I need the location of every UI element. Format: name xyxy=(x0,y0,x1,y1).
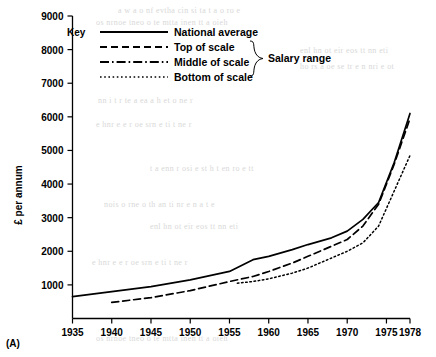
x-tick-label: 1935 xyxy=(61,327,84,338)
x-tick-label: 1970 xyxy=(336,327,359,338)
legend-label: National average xyxy=(174,26,258,38)
y-axis-title: £ per annum xyxy=(13,165,24,225)
legend-label: Bottom of scale xyxy=(174,71,253,83)
x-tick-label: 1960 xyxy=(258,327,281,338)
salary-range-label: Salary range xyxy=(268,52,331,64)
x-tick-label: 1945 xyxy=(140,327,163,338)
series-line xyxy=(73,113,411,296)
y-tick-label: 1000 xyxy=(41,280,64,291)
figure-panel: a w a o nf evtha cin si ta t a o ro e os… xyxy=(0,0,436,357)
y-axis-ticks xyxy=(68,16,73,285)
data-series-group xyxy=(73,113,411,302)
x-tick-label: 1940 xyxy=(101,327,124,338)
y-tick-label: 3000 xyxy=(41,213,64,224)
x-tick-label: 1965 xyxy=(297,327,320,338)
y-tick-label: 6000 xyxy=(41,112,64,123)
series-line xyxy=(112,119,410,303)
x-axis-ticks xyxy=(73,319,411,324)
series-line xyxy=(237,155,410,283)
y-tick-label: 8000 xyxy=(41,45,64,56)
y-tick-label: 9000 xyxy=(41,11,64,22)
chart-legend: Key National averageTop of scaleMiddle o… xyxy=(67,26,331,83)
x-tick-label: 1950 xyxy=(179,327,202,338)
line-chart: 100020003000400050006000700080009000 193… xyxy=(0,0,436,357)
x-tick-label: 1975 xyxy=(375,327,398,338)
y-axis-tick-labels: 100020003000400050006000700080009000 xyxy=(41,11,64,291)
x-tick-label: 1978 xyxy=(399,327,422,338)
legend-label: Top of scale xyxy=(174,41,235,53)
y-tick-label: 2000 xyxy=(41,246,64,257)
legend-key-label: Key xyxy=(67,27,86,38)
legend-label: Middle of scale xyxy=(174,56,249,68)
x-axis-tick-labels: 1935194019451950195519601965197019751978 xyxy=(61,327,421,338)
y-tick-label: 7000 xyxy=(41,78,64,89)
x-tick-label: 1955 xyxy=(218,327,241,338)
legend-entries: National averageTop of scaleMiddle of sc… xyxy=(100,26,258,83)
y-tick-label: 4000 xyxy=(41,179,64,190)
y-tick-label: 5000 xyxy=(41,145,64,156)
